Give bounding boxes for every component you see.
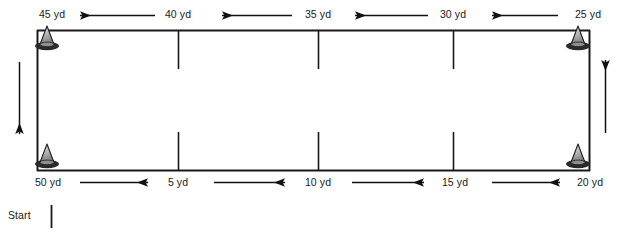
bottom-label-50yd: 50 yd [35,177,61,188]
bottom-label-15yd: 15 yd [442,177,468,188]
drill-diagram: 45 yd 40 yd 35 yd 30 yd 25 yd 50 yd 5 yd… [0,0,620,236]
bottom-label-10yd: 10 yd [305,177,331,188]
top-label-45yd: 45 yd [39,9,65,20]
start-label: Start [8,210,31,221]
bottom-label-20yd: 20 yd [577,177,603,188]
top-label-25yd: 25 yd [575,9,601,20]
top-label-30yd: 30 yd [440,9,466,20]
bottom-label-5yd: 5 yd [168,177,188,188]
side-direction-arrows [20,60,606,134]
field-graphic [0,0,620,236]
top-tick-marks [179,31,454,69]
cone-bottom-left [35,144,59,168]
course-rectangle [37,30,590,171]
bottom-tick-marks [179,132,454,170]
top-label-40yd: 40 yd [165,9,191,20]
cone-bottom-right [566,144,590,168]
top-label-35yd: 35 yd [305,9,331,20]
